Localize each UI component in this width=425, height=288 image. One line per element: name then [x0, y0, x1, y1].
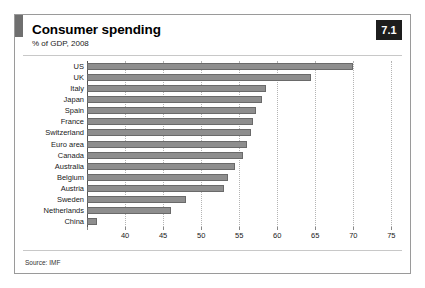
category-label: Japan	[64, 95, 84, 104]
page-title: Consumer spending	[32, 22, 161, 37]
x-tick-label: 45	[159, 231, 167, 240]
x-tick-mark	[277, 227, 278, 230]
bar	[87, 118, 253, 125]
category-label: Netherlands	[44, 206, 84, 215]
category-label: Belgium	[57, 173, 84, 182]
bar	[87, 74, 311, 81]
x-tick-mark-origin	[87, 227, 88, 230]
bar	[87, 163, 235, 170]
footer-divider	[23, 250, 402, 251]
chart-figure: Consumer spending % of GDP, 2008 7.1 USU…	[14, 14, 411, 274]
header-divider	[23, 55, 402, 56]
x-tick-mark	[391, 227, 392, 230]
x-tick-mark	[163, 227, 164, 230]
value-axis: 4045505560657075	[87, 227, 399, 245]
category-label: Sweden	[57, 195, 84, 204]
bar	[87, 218, 97, 225]
x-tick-label: 70	[349, 231, 357, 240]
bar	[87, 141, 247, 148]
x-tick-mark	[239, 227, 240, 230]
gridline	[277, 61, 279, 227]
x-tick-label: 60	[273, 231, 281, 240]
bar	[87, 174, 228, 181]
category-label: Spain	[65, 106, 84, 115]
gridline	[391, 61, 393, 227]
x-tick-mark	[201, 227, 202, 230]
category-label: Euro area	[51, 140, 84, 149]
bar	[87, 63, 353, 70]
category-axis-labels: USUKItalyJapanSpainFranceSwitzerlandEuro…	[15, 61, 87, 227]
bar	[87, 107, 256, 114]
chart-header: Consumer spending % of GDP, 2008 7.1	[15, 15, 410, 59]
x-tick-mark	[315, 227, 316, 230]
chart-subtitle: % of GDP, 2008	[32, 39, 89, 48]
x-tick-label: 55	[235, 231, 243, 240]
x-tick-label: 65	[311, 231, 319, 240]
bar	[87, 152, 243, 159]
source-note: Source: IMF	[25, 259, 60, 266]
category-label: China	[64, 217, 84, 226]
category-label: France	[61, 117, 84, 126]
gridline	[353, 61, 355, 227]
x-tick-mark	[353, 227, 354, 230]
x-tick-label: 40	[121, 231, 129, 240]
category-label: Italy	[70, 84, 84, 93]
bar	[87, 85, 266, 92]
category-label: Austria	[61, 184, 84, 193]
category-label: Canada	[58, 151, 84, 160]
x-tick-label: 50	[197, 231, 205, 240]
category-label: US	[74, 62, 84, 71]
figure-number-badge: 7.1	[376, 20, 402, 40]
category-label: Switzerland	[45, 128, 84, 137]
gridline	[315, 61, 317, 227]
bars-container	[87, 61, 399, 227]
bar	[87, 129, 251, 136]
bar	[87, 185, 224, 192]
plot-area: USUKItalyJapanSpainFranceSwitzerlandEuro…	[15, 59, 410, 245]
category-label: UK	[74, 73, 84, 82]
title-accent-bar	[15, 15, 23, 37]
bar	[87, 196, 186, 203]
x-tick-mark	[125, 227, 126, 230]
bar	[87, 207, 171, 214]
category-label: Australia	[55, 162, 84, 171]
x-tick-label: 75	[387, 231, 395, 240]
bar	[87, 96, 262, 103]
